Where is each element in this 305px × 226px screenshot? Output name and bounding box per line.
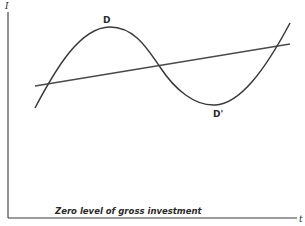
- zero-level-caption: Zero level of gross investment: [54, 206, 203, 216]
- peak-label: D: [103, 15, 110, 25]
- trend-line: [35, 44, 290, 86]
- investment-cycle-diagram: I t Zero level of gross investment D D': [0, 0, 305, 226]
- y-axis-label: I: [4, 1, 9, 11]
- x-axis-label: t: [299, 214, 303, 224]
- diagram-canvas: I t Zero level of gross investment D D': [0, 0, 305, 226]
- trough-label: D': [213, 109, 223, 119]
